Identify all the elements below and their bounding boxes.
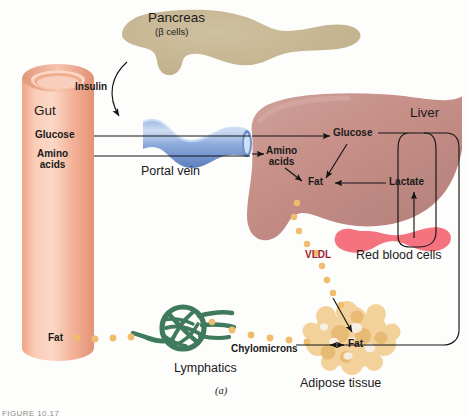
label-lactate: Lactate bbox=[389, 177, 424, 188]
label-adipose-tissue: Adipose tissue bbox=[300, 377, 381, 391]
label-insulin: Insulin bbox=[75, 82, 107, 93]
label-lymphatics: Lymphatics bbox=[174, 362, 237, 376]
label-fat-liver: Fat bbox=[308, 177, 323, 188]
label-amino-acids-liver-line1: Amino bbox=[266, 145, 297, 156]
label-gut: Gut bbox=[34, 104, 56, 119]
label-liver: Liver bbox=[410, 106, 439, 121]
label-vldl: VLDL bbox=[305, 250, 331, 261]
label-chylomicrons: Chylomicrons bbox=[231, 344, 298, 355]
label-amino-acids-liver: Amino acids bbox=[266, 146, 297, 168]
label-amino-acids-gut-line2: acids bbox=[40, 159, 66, 170]
label-amino-acids-gut-line1: Amino bbox=[37, 148, 68, 159]
label-fat-adipose: Fat bbox=[348, 339, 363, 350]
label-amino-acids-liver-line2: acids bbox=[269, 156, 295, 167]
organ-gut bbox=[22, 64, 94, 361]
figure-diagram: Pancreas (β cells) Insulin Gut Glucose A… bbox=[0, 0, 470, 417]
figure-caption: FIGURE 10.17 bbox=[2, 409, 59, 417]
panel-label: (a) bbox=[215, 385, 227, 396]
label-fat-gut: Fat bbox=[48, 333, 63, 344]
label-pancreas: Pancreas bbox=[148, 11, 205, 26]
label-pancreas-beta-cells: (β cells) bbox=[155, 27, 188, 37]
arrow-insulin bbox=[112, 62, 127, 116]
label-red-blood-cells: Red blood cells bbox=[356, 249, 441, 263]
label-glucose-gut: Glucose bbox=[35, 130, 74, 141]
label-portal-vein: Portal vein bbox=[141, 165, 200, 179]
label-glucose-liver: Glucose bbox=[333, 128, 372, 139]
organ-lymphatics bbox=[133, 307, 234, 349]
organ-portal-vein bbox=[143, 120, 252, 168]
label-amino-acids-gut: Amino acids bbox=[37, 149, 68, 171]
